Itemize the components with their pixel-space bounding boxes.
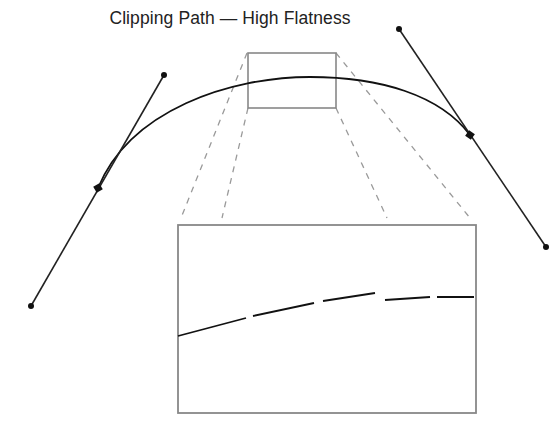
right-control-point xyxy=(396,26,402,32)
projection-line-top-left xyxy=(181,53,247,218)
projection-line-bottom-right xyxy=(336,108,387,218)
right-tangent-handle xyxy=(399,29,546,247)
left-handle-endpoint xyxy=(28,303,34,309)
projection-line-top-right xyxy=(336,53,470,218)
clipping-path-diagram xyxy=(0,0,560,428)
projection-line-bottom-left xyxy=(222,108,248,218)
right-handle-endpoint xyxy=(543,244,549,250)
magnified-inset-box xyxy=(178,225,476,413)
left-control-point xyxy=(161,72,167,78)
